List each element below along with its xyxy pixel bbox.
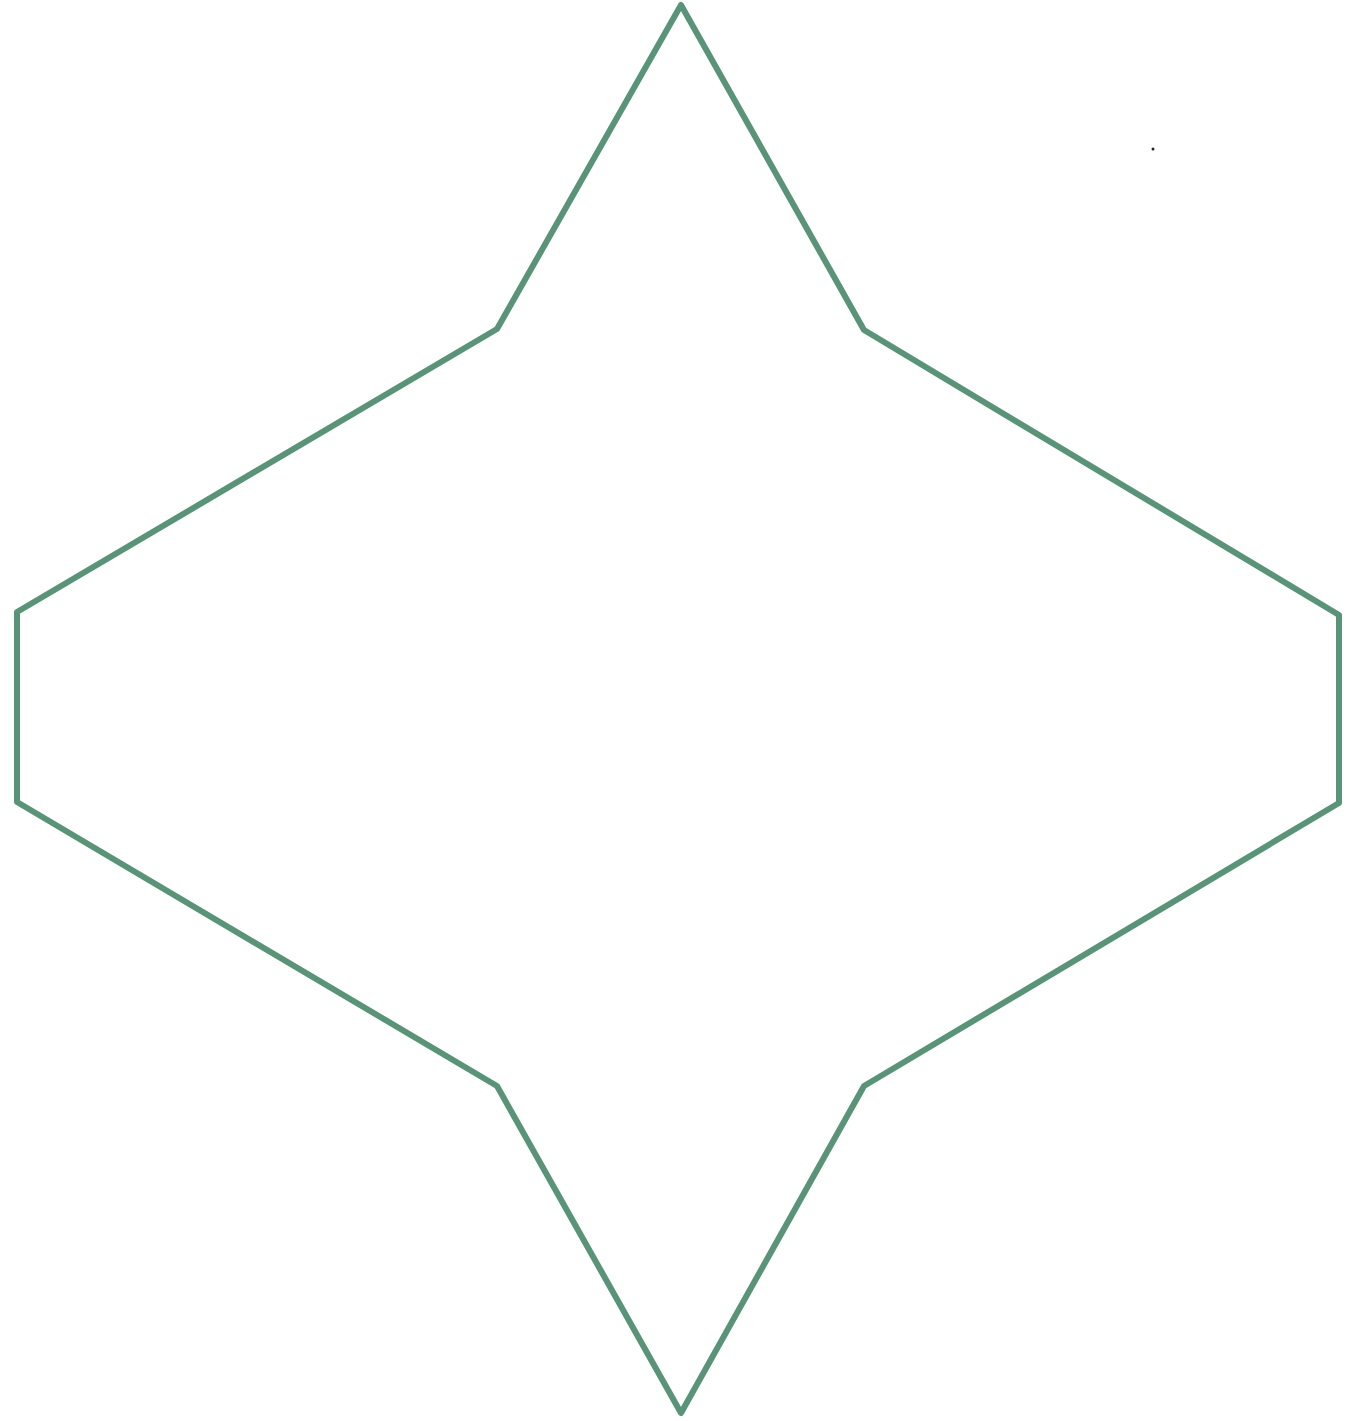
star-polygon-outline xyxy=(17,5,1339,1413)
diagram-svg xyxy=(0,0,1363,1421)
diagram-canvas xyxy=(0,0,1363,1421)
dot-marker xyxy=(1152,148,1155,151)
